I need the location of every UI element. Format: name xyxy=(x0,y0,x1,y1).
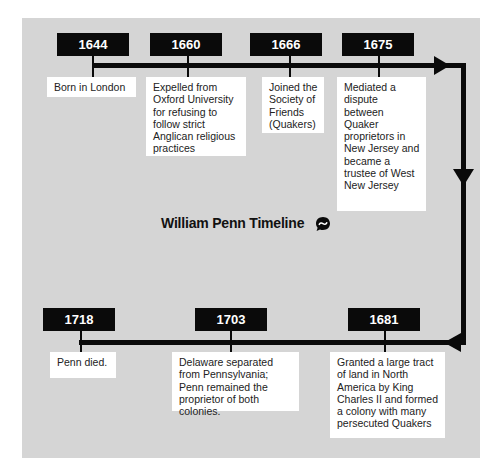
event-label-1703: Delaware separated from Pennsylvania; Pe… xyxy=(172,352,299,411)
event-label-1666: Joined the Society of Friends (Quakers) xyxy=(262,77,324,133)
event-label-1660: Expelled from Oxford University for refu… xyxy=(146,77,246,156)
tick-1703 xyxy=(230,330,232,352)
year-box-1681: 1681 xyxy=(348,308,420,331)
tick-1681 xyxy=(384,330,386,352)
left-arrow-icon xyxy=(444,333,461,352)
timeline-title: William Penn Timeline xyxy=(161,215,304,231)
chat-bubble-wave-icon xyxy=(315,216,331,232)
year-box-1675: 1675 xyxy=(342,33,414,56)
tick-1660 xyxy=(187,56,189,77)
right-vertical-line xyxy=(461,63,466,345)
event-label-1675: Mediated a dispute between Quaker propri… xyxy=(337,77,426,211)
event-label-1718: Penn died. xyxy=(50,352,116,378)
year-box-1666: 1666 xyxy=(250,33,322,56)
year-box-1703: 1703 xyxy=(195,308,267,331)
tick-1644 xyxy=(92,56,94,77)
bottom-timeline-line xyxy=(79,340,466,345)
event-label-1681: Granted a large tract of land in North A… xyxy=(330,352,445,438)
event-label-1644: Born in London xyxy=(47,77,136,97)
year-box-1644: 1644 xyxy=(57,33,129,56)
tick-1675 xyxy=(378,56,380,77)
tick-1718 xyxy=(80,330,82,352)
year-box-1718: 1718 xyxy=(43,308,115,331)
top-timeline-line xyxy=(92,63,442,68)
down-arrow-icon xyxy=(453,169,474,186)
tick-1666 xyxy=(289,56,291,77)
year-box-1660: 1660 xyxy=(150,33,222,56)
